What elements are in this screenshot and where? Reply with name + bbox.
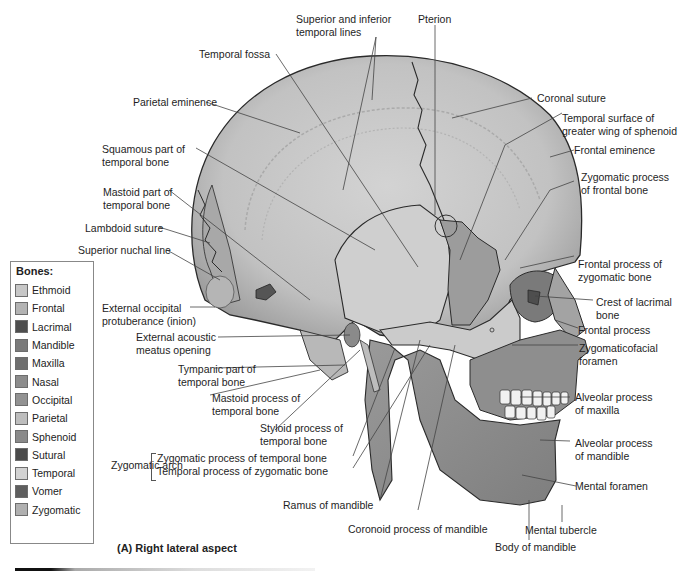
bones-legend: Bones: EthmoidFrontalLacrimalMandibleMax… bbox=[10, 261, 94, 544]
legend-item-label: Mandible bbox=[32, 339, 75, 351]
label-zygomatic-process-frontal: Zygomatic process of frontal bone bbox=[581, 171, 669, 196]
label-frontal-process-zygomatic: Frontal process of zygomatic bone bbox=[578, 258, 662, 283]
label-zygomaticofacial-foramen: Zygomaticofacial foramen bbox=[579, 342, 658, 367]
anatomy-figure: Superior and inferior temporal lines Pte… bbox=[0, 0, 686, 571]
lacrimal bbox=[528, 290, 540, 305]
legend-item-label: Frontal bbox=[32, 302, 65, 314]
label-alveolar-process-maxilla: Alveolar process of maxilla bbox=[575, 391, 653, 416]
legend-item-label: Sutural bbox=[32, 449, 65, 461]
label-external-occipital-protuberance: External occipital protuberance (inion) bbox=[102, 302, 196, 327]
label-parietal-eminence: Parietal eminence bbox=[133, 96, 217, 109]
legend-item: Sphenoid bbox=[15, 427, 89, 445]
legend-item: Ethmoid bbox=[15, 281, 89, 299]
legend-item-label: Sphenoid bbox=[32, 431, 76, 443]
legend-swatch-icon bbox=[15, 393, 28, 406]
legend-swatch-icon bbox=[15, 357, 28, 370]
label-styloid-process: Styloid process of temporal bone bbox=[260, 422, 343, 447]
legend-item-label: Lacrimal bbox=[32, 321, 72, 333]
legend-item: Maxilla bbox=[15, 354, 89, 372]
legend-swatch-icon bbox=[15, 412, 28, 425]
label-mastoid-process: Mastoid process of temporal bone bbox=[212, 392, 300, 417]
label-external-acoustic-meatus: External acoustic meatus opening bbox=[136, 331, 216, 356]
label-temporal-process-zygomatic: Temporal process of zygomatic bone bbox=[157, 465, 328, 478]
legend-item: Occipital bbox=[15, 391, 89, 409]
label-zygomatic-process-temporal: Zygomatic process of temporal bone bbox=[157, 452, 327, 465]
legend-swatch-icon bbox=[15, 302, 28, 315]
legend-item-label: Vomer bbox=[32, 485, 62, 497]
legend-item-label: Parietal bbox=[32, 412, 68, 424]
figure-caption: (A) Right lateral aspect bbox=[117, 542, 237, 554]
zygomatic-arch-bracket bbox=[151, 453, 156, 481]
label-crest-of-lacrimal: Crest of lacrimal bone bbox=[596, 296, 672, 321]
legend-item-label: Nasal bbox=[32, 376, 59, 388]
legend-item: Vomer bbox=[15, 482, 89, 500]
legend-items: EthmoidFrontalLacrimalMandibleMaxillaNas… bbox=[15, 281, 89, 519]
label-alveolar-process-mandible: Alveolar process of mandible bbox=[575, 437, 653, 462]
legend-item-label: Zygomatic bbox=[32, 504, 80, 516]
label-body-of-mandible: Body of mandible bbox=[495, 541, 576, 554]
legend-item: Parietal bbox=[15, 409, 89, 427]
legend-item-label: Maxilla bbox=[32, 357, 65, 369]
legend-swatch-icon bbox=[15, 503, 28, 516]
label-coronoid-process: Coronoid process of mandible bbox=[348, 523, 488, 536]
label-pterion: Pterion bbox=[418, 13, 451, 26]
legend-item: Lacrimal bbox=[15, 318, 89, 336]
legend-swatch-icon bbox=[15, 430, 28, 443]
legend-swatch-icon bbox=[15, 467, 28, 480]
label-coronal-suture: Coronal suture bbox=[537, 92, 606, 105]
legend-item: Zygomatic bbox=[15, 501, 89, 519]
legend-item-label: Temporal bbox=[32, 467, 75, 479]
label-mental-tubercle: Mental tubercle bbox=[525, 524, 597, 537]
label-tympanic-part: Tympanic part of temporal bone bbox=[178, 363, 256, 388]
legend-swatch-icon bbox=[15, 339, 28, 352]
label-frontal-process: Frontal process bbox=[578, 324, 650, 337]
legend-swatch-icon bbox=[15, 284, 28, 297]
legend-item-label: Occipital bbox=[32, 394, 72, 406]
label-superior-nuchal-line: Superior nuchal line bbox=[78, 244, 171, 257]
legend-item: Nasal bbox=[15, 372, 89, 390]
legend-swatch-icon bbox=[15, 485, 28, 498]
legend-item: Temporal bbox=[15, 464, 89, 482]
inion bbox=[206, 276, 234, 308]
legend-swatch-icon bbox=[15, 320, 28, 333]
label-lambdoid-suture: Lambdoid suture bbox=[85, 222, 163, 235]
label-squamous-part: Squamous part of temporal bone bbox=[102, 143, 185, 168]
legend-swatch-icon bbox=[15, 448, 28, 461]
label-temporal-surface-sphenoid: Temporal surface of greater wing of sphe… bbox=[562, 112, 677, 137]
legend-item-label: Ethmoid bbox=[32, 284, 71, 296]
legend-title: Bones: bbox=[16, 265, 89, 277]
label-frontal-eminence: Frontal eminence bbox=[574, 144, 655, 157]
legend-item: Sutural bbox=[15, 446, 89, 464]
label-ramus-of-mandible: Ramus of mandible bbox=[283, 499, 373, 512]
label-superior-inferior-temporal-lines: Superior and inferior temporal lines bbox=[296, 13, 391, 38]
legend-item: Frontal bbox=[15, 299, 89, 317]
label-temporal-fossa: Temporal fossa bbox=[199, 48, 270, 61]
label-mastoid-part: Mastoid part of temporal bone bbox=[103, 186, 172, 211]
label-mental-foramen: Mental foramen bbox=[575, 480, 648, 493]
legend-swatch-icon bbox=[15, 375, 28, 388]
legend-item: Mandible bbox=[15, 336, 89, 354]
